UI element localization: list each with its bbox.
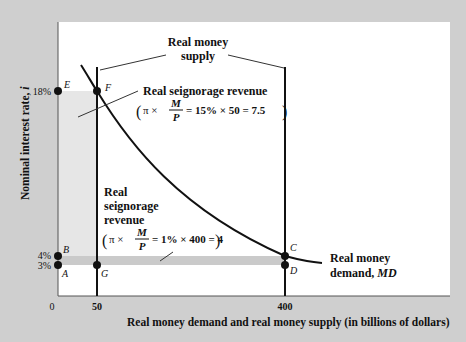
supply-label-line2: supply <box>181 49 215 63</box>
seignorage-chart: E F B A G C D 18% 4% 3% 0 50 400 Nominal… <box>0 0 466 342</box>
y-tick-3: 3% <box>38 260 51 271</box>
point-A <box>54 261 62 269</box>
seignorage-bottom-pi: π × <box>109 233 124 245</box>
seignorage-region-high <box>58 91 97 265</box>
point-B <box>54 252 62 260</box>
demand-label-line1: Real money <box>330 251 390 265</box>
seignorage-region-low <box>58 256 285 265</box>
seignorage-bottom-line2: seignorage <box>104 199 159 213</box>
x-axis-title: Real money demand and real money supply … <box>127 316 450 329</box>
seignorage-top-title: Real seignorage revenue <box>143 84 268 98</box>
label-E: E <box>63 79 70 90</box>
point-F <box>93 87 101 95</box>
demand-label-line2: demand, MD <box>330 266 397 280</box>
point-G <box>93 261 101 269</box>
point-C <box>281 252 289 260</box>
x-tick-50: 50 <box>92 301 102 312</box>
seignorage-top-P: P <box>173 111 180 123</box>
paren-open: ( <box>136 103 141 121</box>
seignorage-top-rhs: = 15% × 50 = 7.5 <box>186 104 266 116</box>
y-tick-18: 18% <box>33 86 51 97</box>
label-D: D <box>289 265 298 276</box>
label-G: G <box>101 268 108 279</box>
seignorage-bottom-rhs: = 1% × 400 = 4 <box>152 233 224 245</box>
seignorage-bottom-P: P <box>139 240 146 252</box>
plot-panel <box>58 22 450 296</box>
supply-label-line1: Real money <box>168 35 228 49</box>
seignorage-top-pi: π × <box>143 104 158 116</box>
x-tick-400: 400 <box>278 301 293 312</box>
label-F: F <box>104 82 112 93</box>
label-A: A <box>61 268 69 279</box>
paren-close: ) <box>282 103 287 121</box>
seignorage-top-M: M <box>170 97 182 109</box>
seignorage-bottom-line3: revenue <box>104 213 145 227</box>
paren-close: ) <box>215 232 220 250</box>
seignorage-bottom-line1: Real <box>104 185 128 199</box>
point-D <box>281 261 289 269</box>
point-E <box>54 87 62 95</box>
seignorage-bottom-M: M <box>136 226 148 238</box>
x-tick-0: 0 <box>50 301 55 312</box>
label-C: C <box>290 242 297 253</box>
paren-open: ( <box>102 232 107 250</box>
y-axis-title: Nominal interest rate, i <box>19 86 31 200</box>
label-B: B <box>63 244 69 255</box>
